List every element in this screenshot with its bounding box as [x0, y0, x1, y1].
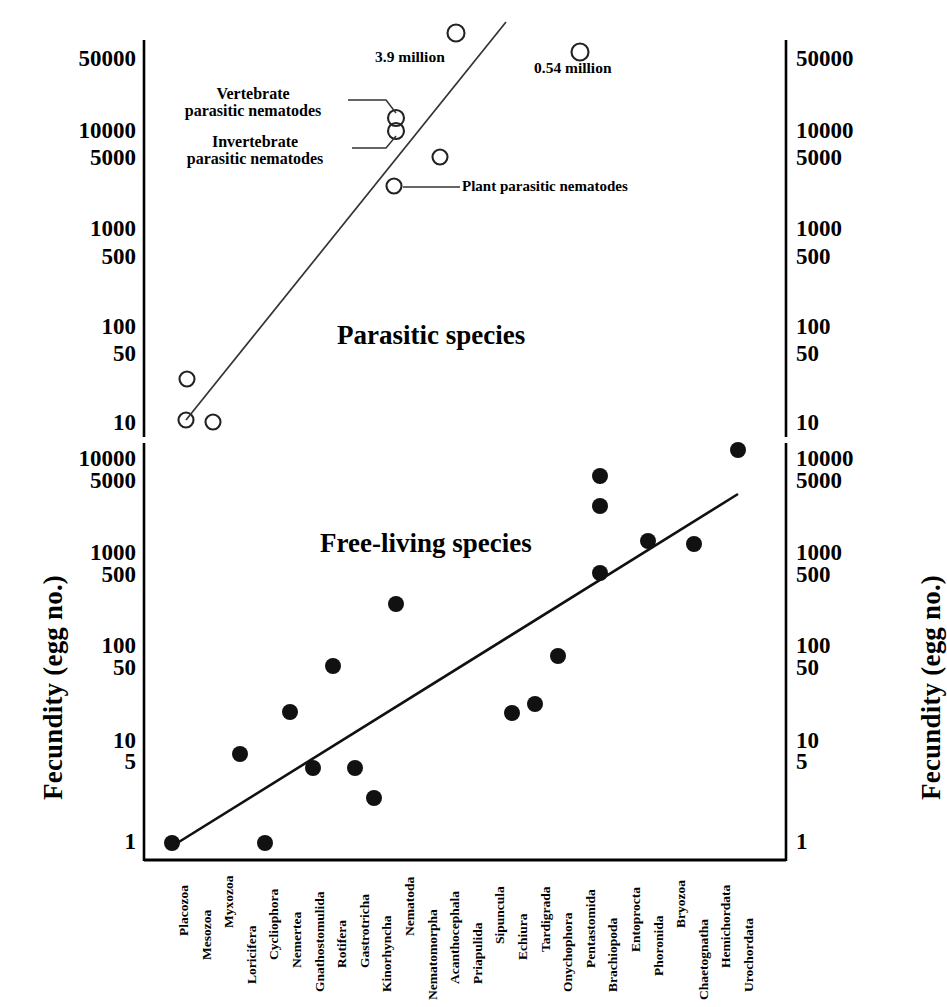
- y-tick-upper-500-right: 500: [796, 245, 831, 268]
- y-tick-upper-50000-right: 50000: [796, 47, 854, 70]
- y-tick-lower-100-right: 100: [796, 634, 831, 657]
- x-axis-label-entoprocta: Entoprocta: [629, 887, 643, 952]
- y-tick-upper-10000-left: 10000: [60, 119, 136, 142]
- y-tick-upper-5000-left: 5000: [60, 146, 136, 169]
- y-tick-upper-500-left: 500: [60, 245, 136, 268]
- y-tick-upper-100-left: 100: [60, 315, 136, 338]
- y-tick-lower-50-right: 50: [796, 656, 819, 679]
- data-label-0-54-million: 0.54 million: [534, 59, 612, 77]
- x-axis-label-acanthocephala: Acanthocephala: [448, 891, 462, 984]
- y-tick-upper-10-right: 10: [796, 411, 819, 434]
- annotation-invertebrate-parasitic-nematodes: Invertebrate parasitic nematodes: [157, 134, 353, 168]
- annotation-plant-parasitic-nematodes: Plant parasitic nematodes: [462, 179, 628, 195]
- x-axis-label-kinorhyncha: Kinorhyncha: [380, 915, 394, 992]
- annotation-vertebrate-line1: Vertebrate: [157, 86, 349, 103]
- y-tick-upper-1000-right: 1000: [796, 217, 842, 240]
- x-axis-label-loricifera: Loricifera: [245, 926, 259, 984]
- y-tick-lower-10000-left: 10000: [60, 447, 136, 470]
- x-axis-label-placozoa: Placozoa: [177, 885, 191, 936]
- x-axis-label-pentastomida: Pentastomida: [584, 889, 598, 968]
- y-tick-upper-50000-left: 50000: [60, 47, 136, 70]
- x-axis-label-chaetognatha: Chaetognatha: [697, 919, 711, 1000]
- y-tick-upper-10-left: 10: [60, 411, 136, 434]
- y-tick-lower-500-right: 500: [796, 563, 831, 586]
- y-tick-lower-10000-right: 10000: [796, 447, 854, 470]
- x-axis-label-mesozoa: Mesozoa: [200, 910, 214, 960]
- x-axis-label-onychophora: Onychophora: [561, 912, 575, 992]
- x-axis-label-rotifera: Rotifera: [335, 920, 349, 968]
- y-tick-lower-5000-right: 5000: [796, 469, 842, 492]
- x-axis-label-gastrotricha: Gastrotricha: [358, 894, 372, 968]
- y-tick-lower-5-left: 5: [60, 750, 136, 773]
- x-axis-label-nematomorpha: Nematomorpha: [426, 909, 440, 1000]
- y-tick-lower-1000-right: 1000: [796, 541, 842, 564]
- annotation-vertebrate-parasitic-nematodes: Vertebrate parasitic nematodes: [157, 86, 349, 120]
- x-axis-label-tardigrada: Tardigrada: [539, 886, 553, 952]
- y-tick-lower-100-left: 100: [60, 634, 136, 657]
- x-axis-label-nemertea: Nemertea: [290, 912, 304, 968]
- y-tick-lower-5-right: 5: [796, 750, 808, 773]
- y-tick-upper-50-right: 50: [796, 342, 819, 365]
- x-axis-label-urochordata: Urochordata: [742, 918, 756, 992]
- annotation-invertebrate-line2: parasitic nematodes: [157, 151, 353, 168]
- y-tick-upper-50-left: 50: [60, 342, 136, 365]
- y-tick-lower-1-right: 1: [796, 830, 808, 853]
- x-axis-label-priapulida: Priapulida: [471, 922, 485, 984]
- annotation-invertebrate-line1: Invertebrate: [157, 134, 353, 151]
- y-tick-upper-5000-right: 5000: [796, 146, 842, 169]
- annotation-vertebrate-line2: parasitic nematodes: [157, 103, 349, 120]
- y-tick-lower-50-left: 50: [60, 656, 136, 679]
- x-axis-label-cycliophora: Cycliophora: [267, 889, 281, 960]
- y-tick-upper-100-right: 100: [796, 315, 831, 338]
- x-axis-label-myxozoa: Myxozoa: [222, 876, 236, 928]
- y-tick-lower-1000-left: 1000: [60, 541, 136, 564]
- y-tick-upper-10000-right: 10000: [796, 119, 854, 142]
- data-label-3-9-million: 3.9 million: [375, 48, 445, 66]
- y-tick-lower-1-left: 1: [60, 830, 136, 853]
- x-axis-label-phoronida: Phoronida: [652, 915, 666, 976]
- y-tick-lower-500-left: 500: [60, 563, 136, 586]
- x-axis-label-hemichordata: Hemichordata: [719, 885, 733, 968]
- x-axis-label-gnathostomulida: Gnathostomulida: [313, 891, 327, 992]
- y-tick-upper-1000-left: 1000: [60, 217, 136, 240]
- x-axis-label-sipuncula: Sipuncula: [493, 886, 507, 944]
- x-axis-label-brachiopoda: Brachiopoda: [606, 918, 620, 992]
- x-axis-label-nematoda: Nematoda: [403, 877, 417, 936]
- x-axis-label-echiura: Echiura: [516, 913, 530, 960]
- region-label-parasitic: Parasitic species: [337, 320, 525, 351]
- y-tick-lower-5000-left: 5000: [60, 469, 136, 492]
- x-axis-label-bryozoa: Bryozoa: [674, 880, 688, 928]
- region-label-free-living: Free-living species: [320, 528, 532, 559]
